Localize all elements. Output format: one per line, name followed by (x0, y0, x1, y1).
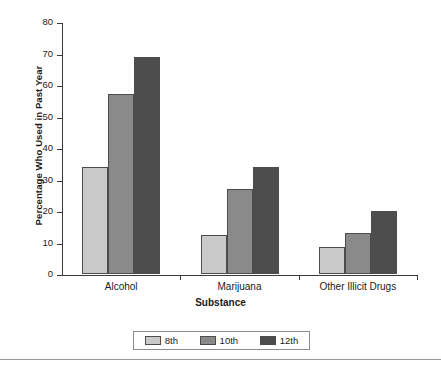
bar-marijuana-10th (227, 189, 253, 274)
legend-item-12th: 12th (260, 335, 299, 346)
bar-other-illicit-drugs-10th (345, 233, 371, 274)
legend-swatch-icon (200, 336, 216, 345)
y-axis-tick: 40 (57, 149, 62, 150)
legend-item-10th: 10th (200, 335, 239, 346)
legend-label: 12th (280, 335, 299, 346)
x-axis-group-label: Other Illicit Drugs (319, 281, 396, 292)
y-axis-line (62, 23, 63, 276)
legend-swatch-icon (145, 336, 161, 345)
y-axis-tick: 0 (57, 275, 62, 276)
y-axis-tick-label: 80 (29, 16, 53, 27)
y-axis-tick-label: 30 (29, 174, 53, 185)
x-axis-title: Substance (0, 297, 441, 308)
bar-alcohol-10th (108, 94, 134, 274)
plot-area: 01020304050607080 AlcoholMarijuanaOther … (62, 23, 417, 275)
bar-chart: Percentage Who Used in Past Year 0102030… (0, 0, 441, 368)
y-axis-tick-label: 50 (29, 111, 53, 122)
y-axis-tick: 20 (57, 212, 62, 213)
chart-legend: 8th10th12th (133, 331, 310, 350)
bar-marijuana-12th (253, 167, 279, 274)
x-axis-tick (180, 275, 181, 280)
y-axis-tick-label: 40 (29, 142, 53, 153)
y-axis-tick: 10 (57, 244, 62, 245)
legend-swatch-icon (260, 336, 276, 345)
y-axis-tick-label: 60 (29, 79, 53, 90)
y-axis-tick-label: 20 (29, 205, 53, 216)
x-axis-tick (299, 275, 300, 280)
x-axis-group-label: Alcohol (105, 281, 138, 292)
legend-label: 8th (165, 335, 178, 346)
bar-other-illicit-drugs-12th (371, 211, 397, 274)
y-axis-tick-label: 70 (29, 48, 53, 59)
bar-alcohol-8th (82, 167, 108, 274)
y-axis-tick-label: 10 (29, 237, 53, 248)
x-axis-group-label: Marijuana (218, 281, 262, 292)
x-axis-tick (417, 275, 418, 280)
y-axis-tick: 80 (57, 23, 62, 24)
page-divider-rule (0, 359, 441, 360)
legend-label: 10th (220, 335, 239, 346)
bar-other-illicit-drugs-8th (319, 247, 345, 274)
y-axis-tick: 60 (57, 86, 62, 87)
y-axis-tick-label: 0 (29, 268, 53, 279)
y-axis-tick: 30 (57, 181, 62, 182)
legend-item-8th: 8th (145, 335, 178, 346)
x-axis-line (62, 275, 418, 276)
bar-alcohol-12th (134, 57, 160, 274)
y-axis-tick: 50 (57, 118, 62, 119)
y-axis-tick: 70 (57, 55, 62, 56)
bar-marijuana-8th (201, 235, 227, 274)
